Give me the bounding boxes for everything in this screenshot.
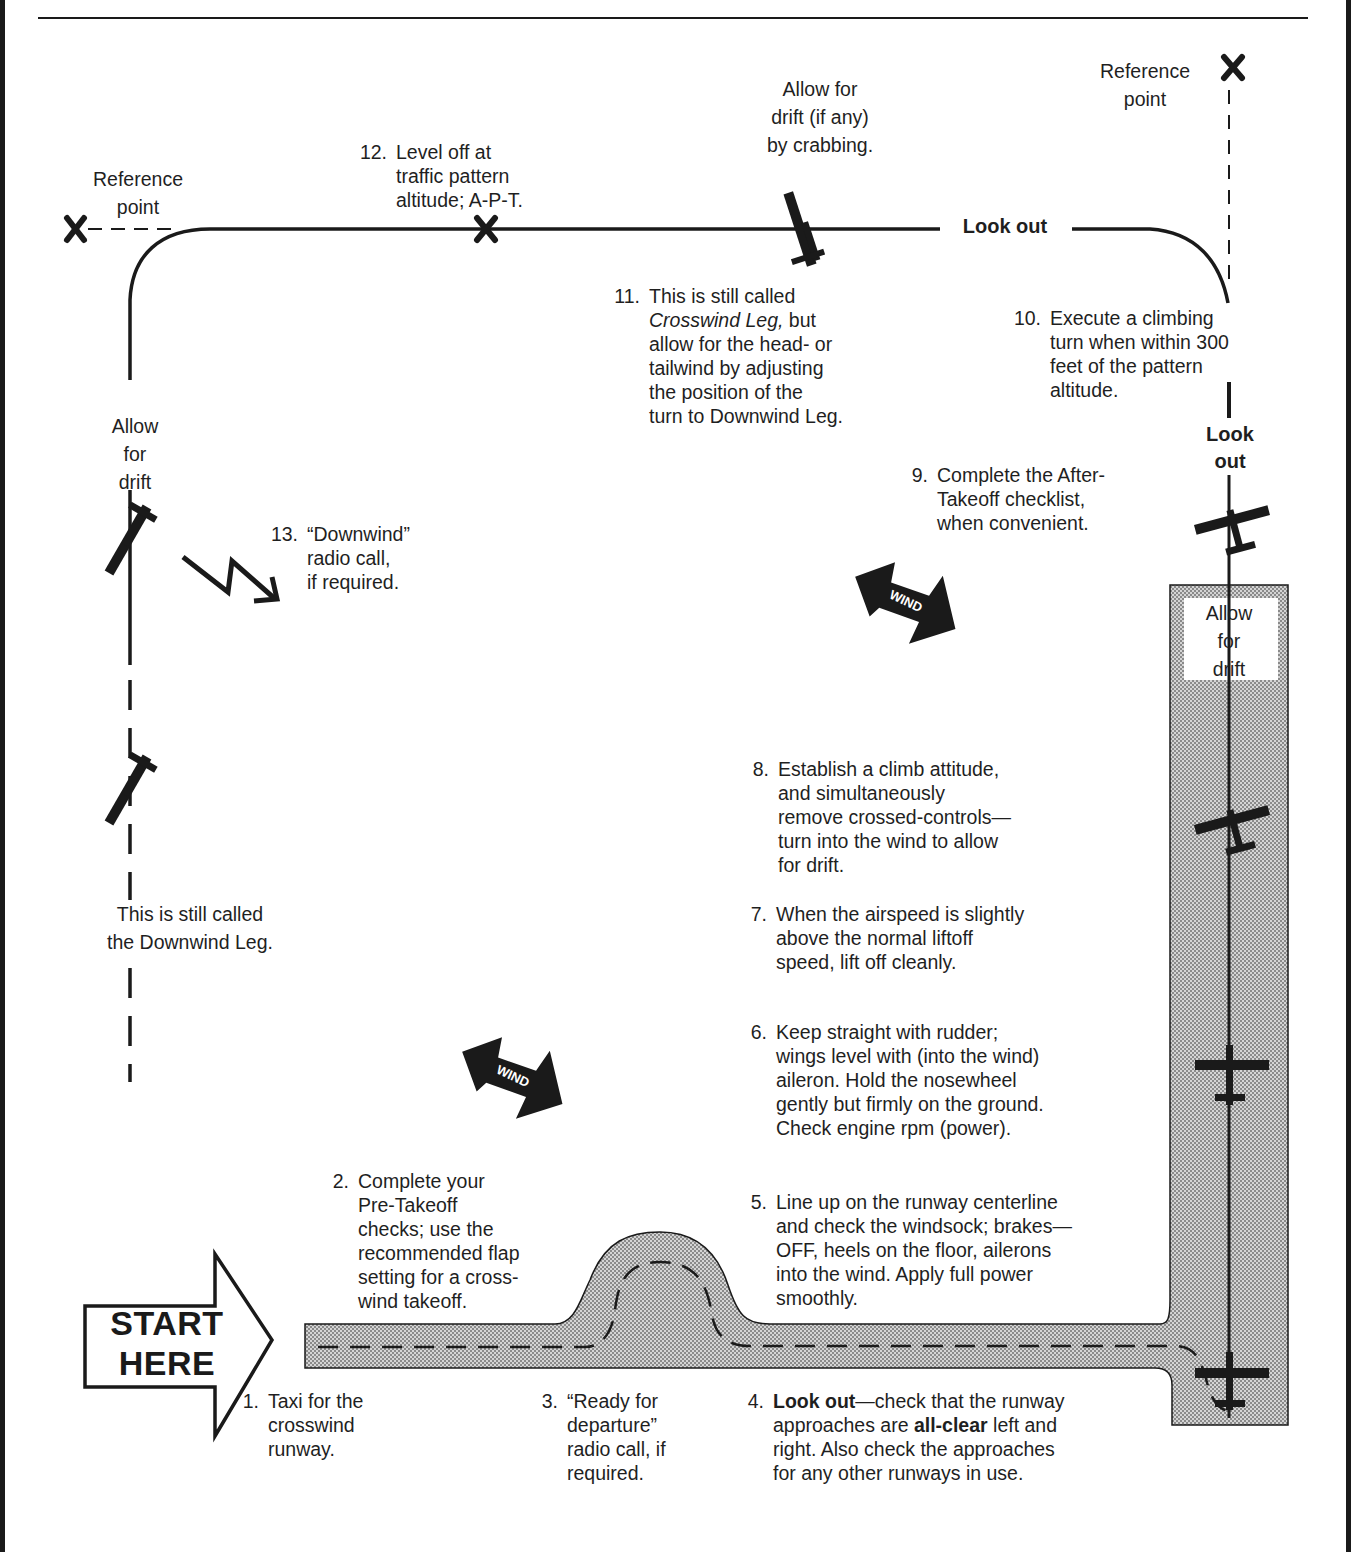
step-text: Keep straight with rudder; wings level w… <box>776 1020 1044 1140</box>
downwind-leg-note: This is still called the Downwind Leg. <box>75 900 305 956</box>
downwind-turn-path <box>130 229 210 380</box>
step-italic-lead: Crosswind Leg, <box>649 309 783 331</box>
step-12: 12. Level off at traffic pattern altitud… <box>356 140 523 212</box>
airplane-downwind-drift-icon <box>95 499 159 580</box>
step-text: Complete your Pre-Takeoff checks; use th… <box>358 1169 520 1313</box>
start-label-line-2: HERE <box>92 1343 242 1383</box>
step-number: 2. <box>318 1169 349 1313</box>
step-number: 4. <box>733 1389 764 1485</box>
step-number: 12. <box>356 140 387 212</box>
step-1: 1. Taxi for the crosswind runway. <box>228 1389 363 1461</box>
step-9: 9. Complete the After- Takeoff checklist… <box>897 463 1105 535</box>
reference-point-left-x-icon <box>67 218 84 240</box>
step-number: 1. <box>228 1389 259 1461</box>
step-5: 5. Line up on the runway centerline and … <box>736 1190 1072 1310</box>
step-number: 11. <box>609 284 640 428</box>
step-number: 3. <box>527 1389 558 1485</box>
step-number: 13. <box>267 522 298 594</box>
step-2: 2. Complete your Pre-Takeoff checks; use… <box>318 1169 520 1313</box>
step-text: “Ready for departure” radio call, if req… <box>567 1389 666 1485</box>
step-number: 5. <box>736 1190 767 1310</box>
step-number: 6. <box>736 1020 767 1140</box>
step-number: 10. <box>1010 306 1041 402</box>
step-8: 8. Establish a climb attitude, and simul… <box>738 757 1011 877</box>
step-7: 7. When the airspeed is slightly above t… <box>736 902 1024 974</box>
step-bold-lead: Look out <box>773 1390 855 1412</box>
step-text-pre: This is still called <box>649 285 795 307</box>
reference-point-left-label: Reference point <box>68 165 208 221</box>
airplane-downwind-icon <box>95 749 159 830</box>
step-text: This is still called Crosswind Leg, but … <box>649 284 843 428</box>
wind-arrow-lower-icon: WIND <box>446 1017 581 1134</box>
reference-point-right-label: Reference point <box>1075 57 1215 113</box>
step-text: Line up on the runway centerline and che… <box>776 1190 1072 1310</box>
step-text: Establish a climb attitude, and simultan… <box>778 757 1011 877</box>
start-label-line-1: START <box>92 1303 242 1343</box>
step-text: Taxi for the crosswind runway. <box>268 1389 363 1461</box>
start-here-label: START HERE <box>92 1303 242 1383</box>
step-text: “Downwind” radio call, if required. <box>307 522 410 594</box>
reference-point-right-x-icon <box>1224 57 1242 78</box>
step-3: 3. “Ready for departure” radio call, if … <box>527 1389 666 1485</box>
wind-arrow-upper-icon: WIND <box>839 542 974 659</box>
step-text: Level off at traffic pattern altitude; A… <box>396 140 523 212</box>
step-number: 8. <box>738 757 769 877</box>
step-text: Look out—check that the runway approache… <box>773 1389 1065 1485</box>
step-number: 9. <box>897 463 928 535</box>
radio-call-arrow-icon <box>183 557 277 601</box>
climbing-turn-path <box>1072 229 1228 303</box>
step-4: 4. Look out—check that the runway approa… <box>733 1389 1065 1485</box>
step-text: Complete the After- Takeoff checklist, w… <box>937 463 1105 535</box>
allow-drift-downwind-label: Allow for drift <box>85 412 185 496</box>
look-out-crosswind-label: Look out <box>944 213 1066 240</box>
step-10: 10. Execute a climbing turn when within … <box>1010 306 1229 402</box>
airplane-climbout-icon <box>1193 501 1278 562</box>
step-number: 7. <box>736 902 767 974</box>
step-6: 6. Keep straight with rudder; wings leve… <box>736 1020 1044 1140</box>
step-11: 11. This is still called Crosswind Leg, … <box>609 284 843 428</box>
step-bold-mid: all-clear <box>914 1414 988 1436</box>
step-text: Execute a climbing turn when within 300 … <box>1050 306 1229 402</box>
allow-drift-runway-label: Allow for drift <box>1180 599 1278 683</box>
allow-drift-crabbing-label: Allow for drift (if any) by crabbing. <box>730 75 910 159</box>
step-text: When the airspeed is slightly above the … <box>776 902 1024 974</box>
step-13: 13. “Downwind” radio call, if required. <box>267 522 410 594</box>
look-out-climb-label: Look out <box>1194 421 1266 475</box>
